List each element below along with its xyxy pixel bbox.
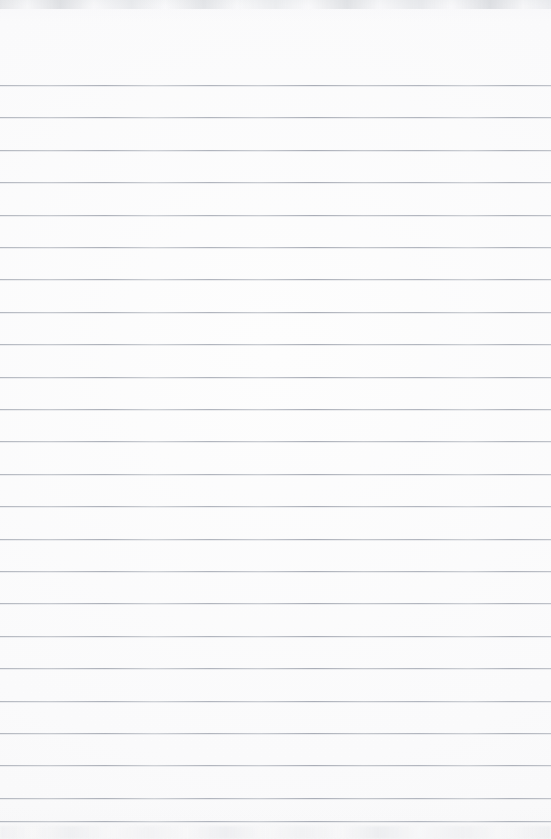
writing-area[interactable]	[0, 85, 551, 830]
lined-paper-page	[0, 0, 551, 839]
